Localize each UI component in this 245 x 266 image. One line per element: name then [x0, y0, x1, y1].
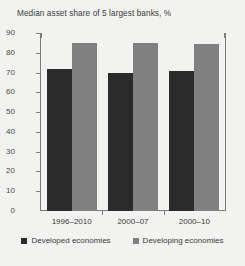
x-tick-label: 2000–10 — [179, 217, 210, 226]
y-tick-label: 10 — [6, 187, 15, 195]
y-tick-label: 30 — [6, 148, 15, 156]
legend-swatch-icon-developing — [133, 238, 139, 244]
y-tick-label: 70 — [6, 69, 15, 77]
legend-label-developed: Developed economies — [31, 236, 110, 245]
bars-layer — [41, 33, 225, 211]
y-tick-label: 60 — [6, 88, 15, 96]
y-tick-label: 0 — [11, 207, 15, 215]
legend-swatch-icon-developed — [21, 238, 27, 244]
bar-developed[interactable] — [47, 69, 72, 211]
y-axis: 0102030405060708090 — [0, 0, 40, 266]
y-tick-label: 40 — [6, 128, 15, 136]
chart-legend: Developed economies Developing economies — [0, 236, 245, 245]
x-tick-mark — [164, 211, 165, 215]
x-tick-label: 1996–2010 — [52, 217, 92, 226]
legend-item-developing[interactable]: Developing economies — [133, 236, 224, 245]
bar-group — [47, 33, 97, 211]
bar-developing[interactable] — [72, 43, 97, 211]
y-tick-label: 80 — [6, 49, 15, 57]
bar-group — [169, 33, 219, 211]
bar-developed[interactable] — [108, 73, 133, 211]
chart-title: Median asset share of 5 largest banks, % — [17, 9, 171, 18]
y-tick-label: 90 — [6, 29, 15, 37]
y-tick-label: 20 — [6, 167, 15, 175]
legend-label-developing: Developing economies — [143, 236, 224, 245]
bar-developing[interactable] — [194, 44, 219, 211]
x-tick-label: 2000–07 — [117, 217, 148, 226]
legend-item-developed[interactable]: Developed economies — [21, 236, 110, 245]
bar-group — [108, 33, 158, 211]
bar-developing[interactable] — [133, 43, 158, 211]
y-tick-label: 50 — [6, 108, 15, 116]
bar-chart-figure: Median asset share of 5 largest banks, %… — [0, 0, 245, 266]
bar-developed[interactable] — [169, 71, 194, 211]
x-tick-mark — [102, 211, 103, 215]
